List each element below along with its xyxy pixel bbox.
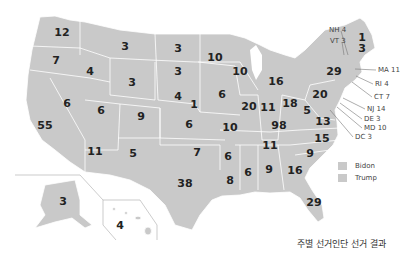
state-label-id: 4 [86,65,94,78]
state-label-ia: 6 [218,88,226,101]
state-label-ks: 6 [185,118,193,131]
state-label-or: 7 [52,54,60,67]
state-label-mi: 16 [268,75,283,88]
state-label-in: 11 [260,101,275,114]
state-label-wy: 3 [128,76,136,89]
legend-item-biden: Bidon [338,160,377,172]
state-label-ky: 98 [271,119,286,132]
state-label-pa: 20 [312,88,327,101]
state-label-tn: 11 [262,139,277,152]
trump-swatch [338,174,347,182]
state-label-ut: 6 [97,104,105,117]
state-label-ne-2: 1 [190,98,198,111]
legend-label: Bidon [355,162,375,170]
state-label-al: 9 [265,163,273,176]
state-label-mn: 10 [207,51,222,64]
state-label-ar: 6 [224,150,232,163]
callout-label: MD 10 [364,124,387,132]
state-label-hi: 4 [116,219,124,232]
state-label-ga: 16 [287,164,302,177]
map-caption: 주별 선거인단 선거 결과 [297,237,386,250]
callout-label: RI 4 [375,80,389,88]
state-label-il: 20 [241,100,256,113]
state-label-mt: 3 [121,40,129,53]
callout-label: DE 3 [364,115,381,123]
state-label-ak: 3 [59,195,67,208]
callout-label: VT 3 [330,37,346,45]
state-label-me-2: 3 [358,42,366,55]
callout-label: CT 7 [374,93,390,101]
state-label-co: 9 [137,110,145,123]
state-label-wi: 10 [232,65,247,78]
callout-label: MA 11 [378,66,400,74]
state-label-fl: 29 [306,196,321,209]
state-label-nd: 3 [174,42,182,55]
state-label-la: 8 [226,174,234,187]
state-label-nv: 6 [63,97,71,110]
state-label-tx: 38 [177,177,192,190]
state-label-az: 11 [87,145,102,158]
callout-label: NJ 14 [367,105,385,113]
legend-item-trump: Trump [338,172,377,184]
callout-label: NH 4 [329,26,346,34]
callout-label: DC 3 [355,133,372,141]
state-label-ms: 6 [244,166,252,179]
state-label-wv: 5 [303,104,311,117]
state-label-sd: 3 [174,65,182,78]
state-label-va: 13 [315,115,330,128]
state-label-ne: 4 [174,90,182,103]
state-label-nc: 15 [314,132,329,145]
state-label-sc: 9 [306,147,314,160]
state-label-mo: 10 [222,121,237,134]
hawaii-inset [103,200,157,240]
legend: Bidon Trump [338,160,377,184]
state-label-ok: 7 [193,146,201,159]
legend-label: Trump [355,174,377,182]
state-label-ca: 55 [37,119,52,132]
state-label-oh: 18 [282,97,297,110]
state-label-wa: 12 [54,26,69,39]
state-label-ny: 29 [326,65,341,78]
state-label-nm: 5 [129,147,137,160]
biden-swatch [338,162,347,170]
